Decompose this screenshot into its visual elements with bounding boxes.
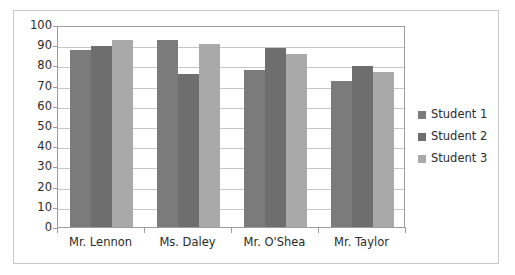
x-axis-tick — [231, 228, 232, 233]
bar — [112, 40, 133, 228]
bar — [157, 40, 178, 228]
bar — [178, 74, 199, 228]
y-axis-tick — [53, 188, 57, 189]
y-axis-tick-label: 0 — [12, 222, 52, 234]
legend-item: Student 2 — [418, 126, 487, 148]
bar-chart: 1009080706050403020100 Mr. LennonMs. Dal… — [0, 0, 515, 275]
y-axis-tick-label: 50 — [12, 121, 52, 133]
legend-label: Student 3 — [431, 153, 487, 165]
bar — [265, 48, 286, 228]
legend-swatch-icon — [418, 111, 426, 119]
bar — [91, 46, 112, 228]
x-axis-category-label: Mr. O'Shea — [231, 237, 318, 249]
bar — [244, 70, 265, 228]
y-axis-tick — [53, 208, 57, 209]
chart-legend: Student 1Student 2Student 3 — [418, 104, 487, 170]
y-axis-tick — [53, 147, 57, 148]
y-axis-tick — [53, 127, 57, 128]
y-axis-tick-label: 10 — [12, 202, 52, 214]
legend-item: Student 3 — [418, 148, 487, 170]
bar — [331, 81, 352, 228]
x-axis-tick — [405, 228, 406, 233]
bar — [286, 54, 307, 228]
y-axis-tick — [53, 66, 57, 67]
bar — [373, 72, 394, 228]
y-axis-tick — [53, 87, 57, 88]
y-axis-tick — [53, 107, 57, 108]
x-axis-category-label: Mr. Taylor — [318, 237, 405, 249]
legend-item: Student 1 — [418, 104, 487, 126]
y-axis-labels: 1009080706050403020100 — [8, 0, 52, 275]
y-axis-tick-label: 80 — [12, 61, 52, 73]
x-axis-tick — [144, 228, 145, 233]
x-axis-category-label: Mr. Lennon — [57, 237, 144, 249]
y-axis-tick-label: 70 — [12, 81, 52, 93]
plot-inner — [58, 27, 404, 228]
y-axis-tick-label: 60 — [12, 101, 52, 113]
x-axis-tick — [57, 228, 58, 233]
x-axis-tick — [318, 228, 319, 233]
y-axis-tick-label: 90 — [12, 40, 52, 52]
y-axis-tick — [53, 167, 57, 168]
legend-label: Student 1 — [431, 109, 487, 121]
legend-label: Student 2 — [431, 131, 487, 143]
plot-area — [57, 26, 405, 228]
bar — [352, 66, 373, 228]
bar — [199, 44, 220, 228]
y-axis-tick — [53, 46, 57, 47]
y-axis-tick-label: 30 — [12, 162, 52, 174]
y-axis-tick — [53, 26, 57, 27]
x-axis-category-label: Ms. Daley — [144, 237, 231, 249]
y-axis-tick-label: 20 — [12, 182, 52, 194]
y-axis-tick — [53, 228, 57, 229]
legend-swatch-icon — [418, 133, 426, 141]
y-axis-tick-label: 40 — [12, 141, 52, 153]
y-axis-tick-label: 100 — [12, 20, 52, 32]
bar — [70, 50, 91, 228]
legend-swatch-icon — [418, 155, 426, 163]
